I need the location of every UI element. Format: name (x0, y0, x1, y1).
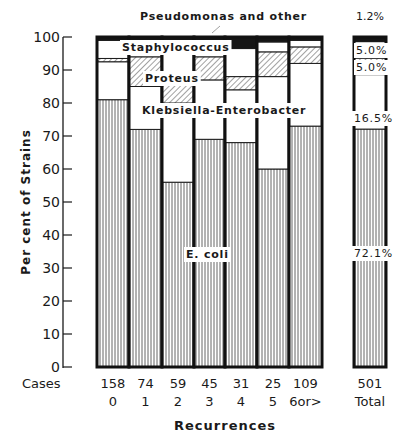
label-klebsiella: Klebsiella-Enterobacter (142, 104, 306, 117)
total-label-klebsiella: 16.5% (354, 112, 393, 125)
category-label: 6or> (289, 394, 321, 409)
category-label: 3 (205, 394, 213, 409)
cases-count: 74 (137, 376, 154, 391)
y-tick-label: 30 (42, 260, 60, 276)
y-tick-label: 70 (42, 128, 60, 144)
category-label: Total (354, 394, 385, 409)
category-label: 4 (237, 394, 245, 409)
category-label: 0 (109, 394, 117, 409)
bar-segment-proteus (289, 47, 322, 64)
total-label-pseudomonas: 1.2% (356, 10, 384, 23)
y-tick-label: 10 (42, 326, 60, 342)
total-label-staph: 5.0% (356, 44, 387, 57)
category-label: 5 (269, 394, 277, 409)
y-tick-label: 80 (42, 95, 60, 111)
y-axis: 0102030405060708090100Per cent of Strain… (19, 29, 72, 375)
bar-segment-staphylococcus (289, 40, 322, 47)
y-tick-label: 50 (42, 194, 60, 210)
category-label: 2 (174, 394, 182, 409)
label-staphylococcus: Staphylococcus (122, 41, 230, 54)
bar-segment-e-coli (289, 126, 322, 367)
cases-count: 109 (293, 376, 318, 391)
bar-segment-klebsiella-enterobacter (97, 62, 129, 100)
y-tick-label: 0 (51, 359, 60, 375)
y-axis-title: Per cent of Strains (19, 129, 33, 275)
cases-count: 158 (101, 376, 126, 391)
x-axis-title: Recurrences (174, 418, 276, 433)
label-pseudomonas: Pseudomonas and other (140, 10, 307, 23)
bars-group (97, 37, 386, 367)
label-proteus: Proteus (145, 72, 199, 85)
stacked-bar-chart: 0102030405060708090100Per cent of Strain… (0, 0, 402, 441)
bar-segment-proteus (257, 52, 289, 77)
y-tick-label: 20 (42, 293, 60, 309)
y-tick-label: 100 (33, 29, 60, 45)
bar-segment-e-coli (97, 100, 129, 367)
cases-count: 501 (358, 376, 383, 391)
bar-segment-staphylococcus (257, 42, 289, 52)
total-label-ecoli: 72.1% (354, 247, 393, 260)
cases-count: 45 (201, 376, 218, 391)
bar-segment-e-coli (129, 129, 162, 367)
bar-segment-klebsiella-enterobacter (257, 77, 289, 169)
label-ecoli: E. coli (186, 248, 229, 261)
bar-segment-e-coli (257, 169, 289, 367)
cases-count: 31 (233, 376, 250, 391)
cases-count: 25 (265, 376, 282, 391)
y-tick-label: 90 (42, 62, 60, 78)
pointer-line (212, 26, 220, 33)
category-label: 1 (141, 394, 149, 409)
y-tick-label: 40 (42, 227, 60, 243)
cases-count: 59 (170, 376, 187, 391)
bar-segment-e-coli (162, 182, 194, 367)
total-label-proteus: 5.0% (356, 61, 387, 74)
bar-segment-proteus (225, 77, 257, 90)
cases-label: Cases (22, 376, 61, 391)
y-tick-label: 60 (42, 161, 60, 177)
